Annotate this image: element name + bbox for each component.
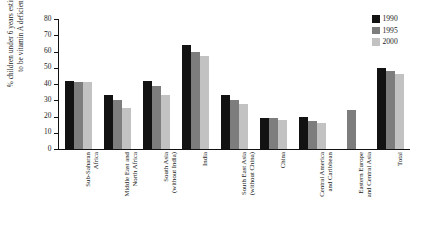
legend-label: 1995 — [383, 27, 398, 35]
legend-label: 1990 — [383, 15, 398, 23]
x-category-label: Total — [396, 152, 404, 224]
y-tick: 20 — [54, 117, 58, 118]
bar — [83, 82, 92, 149]
bar-group — [176, 19, 215, 149]
legend-label: 2000 — [383, 38, 398, 46]
bar — [122, 108, 131, 149]
bar — [347, 110, 356, 149]
bar-group — [59, 19, 98, 149]
x-category-cell: Sub-Saharan Africa — [59, 152, 98, 226]
bar — [65, 81, 74, 149]
y-tick: 70 — [54, 35, 58, 36]
vitamin-a-deficiency-bar-chart: % children under 6 years estimated to be… — [0, 0, 434, 228]
bar — [299, 117, 308, 150]
y-tick-label: 20 — [44, 111, 51, 120]
y-tick-label: 60 — [44, 46, 51, 55]
bar — [113, 100, 122, 149]
y-tick: 50 — [54, 68, 58, 69]
y-tick: 40 — [54, 84, 58, 85]
y-tick-label: 80 — [44, 14, 51, 23]
legend: 199019952000 — [372, 14, 398, 49]
bar — [395, 74, 404, 149]
legend-item: 1995 — [372, 26, 398, 36]
x-category-label: India — [201, 152, 209, 224]
bar-group — [332, 19, 371, 149]
x-category-cell: Middle East and North Africa — [98, 152, 137, 226]
y-tick-label: 70 — [44, 30, 51, 39]
legend-item: 1990 — [372, 14, 398, 24]
x-category-cell: Central America and Caribbean — [293, 152, 332, 226]
x-category-cell: South Asia (without India) — [137, 152, 176, 226]
bar — [143, 81, 152, 149]
y-tick-label: 10 — [44, 127, 51, 136]
x-axis-category-labels: Sub-Saharan AfricaMiddle East and North … — [59, 152, 410, 226]
bar — [104, 95, 113, 149]
y-tick: 0 — [54, 149, 58, 150]
x-category-cell: South East Asia (without China) — [215, 152, 254, 226]
y-axis-title: % children under 6 years estimated to be… — [7, 0, 41, 103]
legend-swatch — [372, 27, 380, 35]
bar — [269, 118, 278, 149]
bar — [308, 121, 317, 149]
bar — [200, 56, 209, 149]
bar-group — [293, 19, 332, 149]
bar — [221, 95, 230, 149]
y-tick: 80 — [54, 19, 58, 20]
bar — [278, 120, 287, 149]
x-category-label: China — [279, 152, 287, 224]
bar-group — [98, 19, 137, 149]
bar — [191, 52, 200, 150]
bar — [230, 100, 239, 149]
bar — [74, 82, 83, 149]
x-category-cell: Total — [371, 152, 410, 226]
legend-swatch — [372, 15, 380, 23]
y-tick-label: 50 — [44, 62, 51, 71]
y-tick-label: 0 — [48, 144, 52, 153]
bar — [239, 104, 248, 150]
bar-group — [215, 19, 254, 149]
bar — [152, 86, 161, 149]
y-tick: 30 — [54, 100, 58, 101]
bar — [161, 95, 170, 149]
x-category-cell: Eastern Europe and Central Asia — [332, 152, 371, 226]
x-category-cell: India — [176, 152, 215, 226]
bar — [317, 123, 326, 149]
y-tick: 10 — [54, 133, 58, 134]
y-tick: 60 — [54, 52, 58, 53]
bar-group — [137, 19, 176, 149]
legend-swatch — [372, 38, 380, 46]
bar-groups — [59, 19, 410, 149]
legend-item: 2000 — [372, 37, 398, 47]
bar — [182, 45, 191, 149]
x-category-cell: China — [254, 152, 293, 226]
y-tick-label: 30 — [44, 95, 51, 104]
bar — [377, 68, 386, 149]
y-tick-label: 40 — [44, 79, 51, 88]
bar-group — [254, 19, 293, 149]
bar — [386, 71, 395, 149]
plot-area: 01020304050607080 — [58, 19, 410, 150]
bar — [260, 118, 269, 149]
